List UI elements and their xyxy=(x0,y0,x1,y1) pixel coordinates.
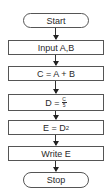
arrow-input-to-c xyxy=(55,55,56,65)
fraction-denominator: 5 xyxy=(63,103,66,108)
arrow-write-to-stop xyxy=(55,161,56,171)
start-terminal: Start xyxy=(23,13,89,28)
compute-c-box: C = A + B xyxy=(8,66,104,81)
stop-label: Stop xyxy=(47,175,66,185)
stop-terminal: Stop xyxy=(23,172,89,188)
arrow-d-to-e xyxy=(55,111,56,119)
compute-d-box: D = C 5 xyxy=(8,94,104,111)
arrow-c-to-d xyxy=(55,81,56,93)
compute-c-label: C = A + B xyxy=(37,69,75,79)
compute-e-box: E = D2 xyxy=(8,120,104,135)
arrow-e-to-write xyxy=(55,135,56,145)
write-output-box: Write E xyxy=(8,146,104,161)
input-process-box: Input A,B xyxy=(8,40,104,55)
compute-d-label: D = xyxy=(45,98,59,108)
compute-e-label: E = D xyxy=(43,123,66,133)
arrow-start-to-input xyxy=(55,28,56,39)
write-label: Write E xyxy=(41,149,70,159)
input-label: Input A,B xyxy=(38,43,75,53)
fraction: C 5 xyxy=(62,97,67,108)
start-label: Start xyxy=(46,16,65,26)
